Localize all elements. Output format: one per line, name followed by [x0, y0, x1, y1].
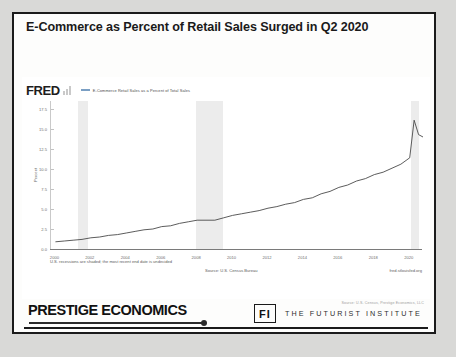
- y-axis-tick: 2.5: [41, 227, 47, 232]
- page-title: E-Commerce as Percent of Retail Sales Su…: [26, 20, 434, 34]
- slide-title-bar: E-Commerce as Percent of Retail Sales Su…: [14, 14, 434, 44]
- presentation-slide: E-Commerce as Percent of Retail Sales Su…: [12, 12, 436, 334]
- data-source-note: Source: U.S. Census Bureau: [205, 268, 258, 274]
- brand-footer: PRESTIGE ECONOMICS FI THE FUTURIST INSTI…: [14, 298, 434, 332]
- fred-logo: FRED: [26, 83, 60, 98]
- y-axis-tick: 17.5: [39, 107, 47, 112]
- plot-area: Percent 0.02.55.07.510.012.515.017.5 200…: [50, 101, 422, 249]
- bar-chart-icon: [63, 86, 72, 95]
- y-axis-tick: 5.0: [41, 207, 47, 212]
- plot-canvas: 0.02.55.07.510.012.515.017.5: [50, 101, 423, 249]
- chart-legend: E-Commerce Retail Sales as a Percent of …: [81, 88, 190, 93]
- legend-label: E-Commerce Retail Sales as a Percent of …: [93, 88, 190, 93]
- fred-url: fred.stlouisfed.org: [389, 268, 422, 274]
- fi-monogram: FI: [254, 304, 276, 323]
- logo-dot: [201, 320, 207, 326]
- fred-footnotes: U.S. recessions are shaded; the most rec…: [50, 259, 422, 287]
- prestige-economics-name: PRESTIGE ECONOMICS: [28, 302, 187, 318]
- y-axis-tick: 7.5: [41, 187, 47, 192]
- x-axis-line: 2000200220042006200820102012201420162018…: [50, 249, 422, 250]
- footer-rule: [24, 327, 428, 329]
- fred-chart-header: FRED E-Commerce Retail Sales as a Percen…: [26, 83, 426, 97]
- y-axis-tick: 15.0: [39, 127, 47, 132]
- recession-note: U.S. recessions are shaded; the most rec…: [50, 259, 180, 265]
- prestige-economics-logo: PRESTIGE ECONOMICS: [28, 302, 187, 318]
- y-axis-tick: 12.5: [39, 147, 47, 152]
- series-line: [55, 120, 423, 242]
- logo-rule: [29, 322, 205, 324]
- legend-swatch: [81, 89, 90, 91]
- y-axis-tick: 10.0: [39, 167, 47, 172]
- futurist-institute-name: THE FUTURIST INSTITUTE: [285, 309, 422, 318]
- futurist-institute-logo: FI THE FUTURIST INSTITUTE: [254, 304, 422, 323]
- series-layer: [51, 101, 423, 249]
- y-axis-tick: 0.0: [41, 247, 47, 252]
- y-axis-label: Percent: [33, 168, 38, 182]
- fred-chart: FRED E-Commerce Retail Sales as a Percen…: [22, 77, 430, 299]
